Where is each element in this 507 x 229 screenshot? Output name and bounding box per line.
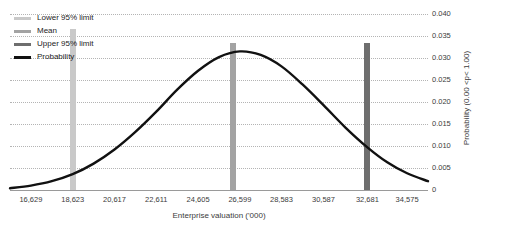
x-tick-label: 24,605 bbox=[187, 195, 210, 204]
legend-item-label: Lower 95% limit bbox=[37, 14, 93, 22]
x-axis-line bbox=[10, 190, 428, 191]
x-tick-label: 20,617 bbox=[103, 195, 126, 204]
y-tick-label: 0.020 bbox=[432, 98, 451, 106]
x-axis-ticks: 16,62918,62320,61722,61124,60526,59928,5… bbox=[10, 195, 428, 209]
x-tick-label: 26,599 bbox=[228, 195, 251, 204]
x-tick-label: 28,583 bbox=[270, 195, 293, 204]
y-tick-label: 0.005 bbox=[432, 164, 451, 172]
x-tick-label: 34,575 bbox=[396, 195, 419, 204]
y-tick-label: 0.015 bbox=[432, 120, 451, 128]
x-tick-label: 30,587 bbox=[312, 195, 335, 204]
legend-swatch-icon bbox=[14, 56, 31, 59]
distribution-chart: 00.0050.0100.0150.0200.0250.0300.0350.04… bbox=[0, 0, 507, 229]
legend-swatch-icon bbox=[14, 43, 31, 46]
y-tick-label: 0 bbox=[432, 186, 436, 194]
x-axis-title: Enterprise valuation ('000) bbox=[0, 211, 438, 220]
legend-item-label: Probability bbox=[37, 53, 74, 61]
x-tick-label: 18,623 bbox=[61, 195, 84, 204]
y-axis-title: Probability (0.00 <p< 1.00) bbox=[462, 0, 471, 28]
chart-legend: Lower 95% limitMeanUpper 95% limitProbab… bbox=[14, 14, 93, 61]
x-tick-label: 22,611 bbox=[145, 195, 167, 204]
legend-item-label: Mean bbox=[37, 27, 57, 35]
x-tick-label: 16,629 bbox=[19, 195, 42, 204]
legend-item-lower-95-limit[interactable]: Lower 95% limit bbox=[14, 14, 93, 22]
y-tick-label: 0.035 bbox=[432, 32, 451, 40]
legend-item-probability[interactable]: Probability bbox=[14, 53, 93, 61]
legend-item-mean[interactable]: Mean bbox=[14, 27, 93, 35]
x-tick-label: 32,681 bbox=[356, 195, 379, 204]
legend-swatch-icon bbox=[14, 30, 31, 33]
y-tick-label: 0.025 bbox=[432, 76, 451, 84]
y-tick-label: 0.010 bbox=[432, 142, 451, 150]
y-tick-label: 0.030 bbox=[432, 54, 451, 62]
y-tick-label: 0.040 bbox=[432, 10, 451, 18]
legend-swatch-icon bbox=[14, 17, 31, 20]
legend-item-label: Upper 95% limit bbox=[37, 40, 93, 48]
legend-item-upper-95-limit[interactable]: Upper 95% limit bbox=[14, 40, 93, 48]
